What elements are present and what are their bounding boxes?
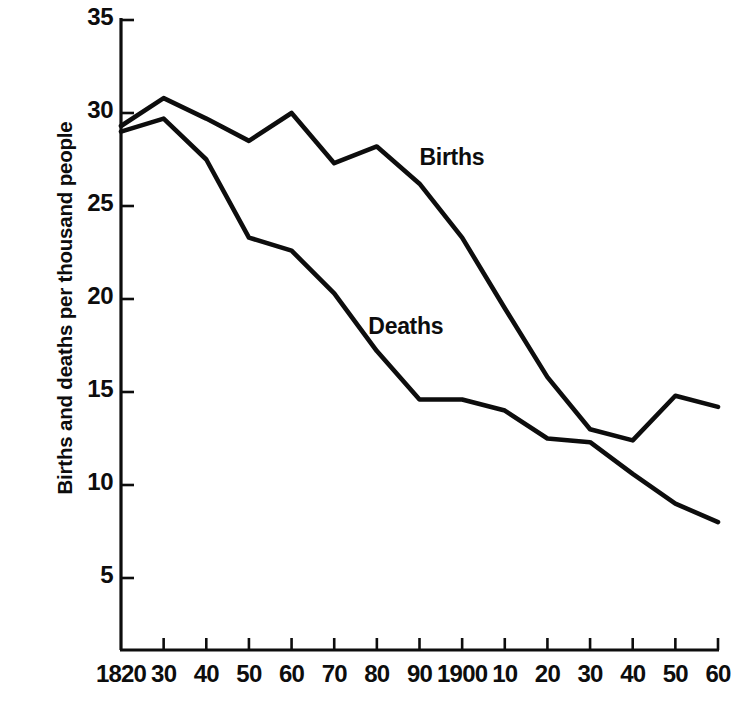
x-axis-tick-label: 60 xyxy=(673,660,742,688)
y-axis-ticks xyxy=(121,20,134,578)
y-axis-tick-label: 15 xyxy=(53,375,113,403)
annotation-births: Births xyxy=(420,144,485,171)
line-chart: Births and deaths per thousand people 35… xyxy=(0,0,742,721)
y-axis-tick-label: 25 xyxy=(53,189,113,217)
y-axis-tick-label: 10 xyxy=(53,468,113,496)
y-axis-tick-label: 30 xyxy=(53,96,113,124)
y-axis-tick-label: 5 xyxy=(53,561,113,589)
y-axis-tick-label: 35 xyxy=(53,3,113,31)
y-axis-tick-label: 20 xyxy=(53,282,113,310)
annotation-deaths: Deaths xyxy=(368,313,443,340)
x-axis-ticks xyxy=(164,638,718,650)
